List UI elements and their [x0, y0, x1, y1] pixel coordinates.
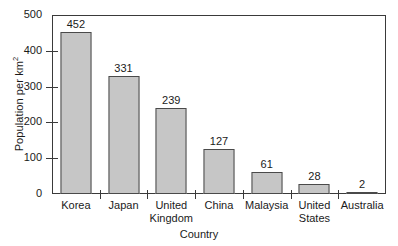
x-tick-mark [100, 190, 101, 199]
y-tick-label: 500 [2, 8, 42, 20]
bar-group[interactable]: 331 [100, 15, 148, 194]
y-tick-label: 200 [2, 115, 42, 127]
bar[interactable] [108, 76, 139, 194]
bar-value-label: 28 [308, 170, 320, 182]
bar[interactable] [60, 32, 91, 194]
y-tick-label: 400 [2, 44, 42, 56]
y-axis-title-text: Population per km [13, 61, 25, 151]
bar-value-label: 61 [261, 158, 273, 170]
bar-value-label: 331 [114, 62, 132, 74]
bar-group[interactable]: 61 [243, 15, 291, 194]
y-tick-label: 0 [2, 187, 42, 199]
bar[interactable] [299, 184, 330, 194]
bar-group[interactable]: 127 [195, 15, 243, 194]
x-category-label: Australia [332, 199, 392, 212]
x-axis-title: Country [0, 228, 398, 240]
bar-group[interactable]: 28 [291, 15, 339, 194]
y-tick-label: 100 [2, 151, 42, 163]
bar-group[interactable]: 452 [52, 15, 100, 194]
y-axis-title-superscript: 2 [11, 57, 20, 61]
bar-group[interactable]: 239 [147, 15, 195, 194]
bars-layer: 45233123912761282 [52, 15, 386, 194]
x-tick-mark [243, 190, 244, 199]
bar-value-label: 127 [210, 135, 228, 147]
x-tick-mark [147, 190, 148, 199]
bar[interactable] [347, 192, 378, 194]
bar[interactable] [251, 172, 282, 194]
bar[interactable] [203, 149, 234, 194]
bar-value-label: 239 [162, 94, 180, 106]
x-tick-mark [338, 190, 339, 199]
bar-chart: Population per km2 0100200300400500 4523… [0, 0, 398, 246]
bar[interactable] [156, 108, 187, 194]
x-tick-mark [291, 190, 292, 199]
y-tick-label: 300 [2, 80, 42, 92]
bar-value-label: 452 [67, 18, 85, 30]
bar-group[interactable]: 2 [338, 15, 386, 194]
bar-value-label: 2 [359, 178, 365, 190]
x-tick-mark [195, 190, 196, 199]
